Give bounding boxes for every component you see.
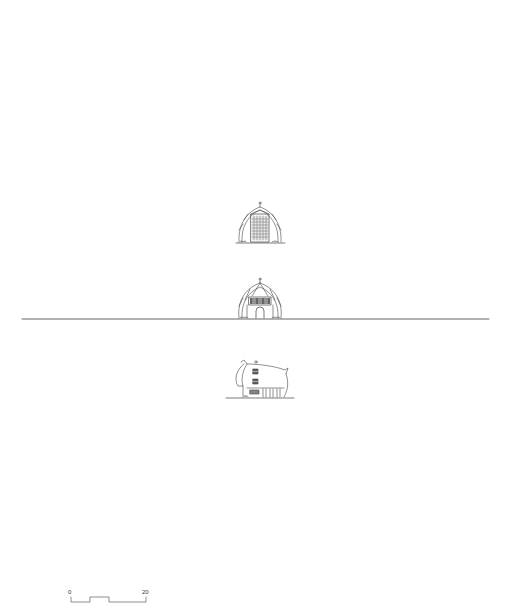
scale-end-label: 20 [142,589,149,595]
elevation-1 [236,202,285,243]
scale-start-label: 0 [68,589,71,595]
drawing-sheet: 0 20 [0,0,519,610]
elevation-2 [239,278,282,318]
drawing-canvas [0,0,519,610]
scale-bar [71,597,146,602]
elevation-3 [226,360,294,398]
